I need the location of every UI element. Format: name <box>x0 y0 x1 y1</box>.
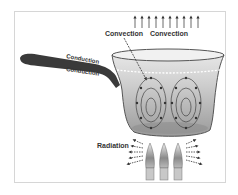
heat-transfer-diagram: Convection Convection Conduction Conduct… <box>0 0 238 195</box>
flame-1 <box>146 143 155 180</box>
radiation-arrows-right <box>186 140 201 164</box>
saucepan-bottom <box>132 122 208 134</box>
label-radiation: Radiation <box>97 142 129 149</box>
saucepan-rim <box>112 49 224 61</box>
flame-2 <box>160 143 169 180</box>
label-convection-left: Convection <box>105 30 143 37</box>
burner-flames <box>146 143 183 180</box>
rising-heat-arrows <box>135 17 198 28</box>
radiation-arrows-left <box>128 140 143 164</box>
label-convection-right: Convection <box>150 30 188 37</box>
flame-3 <box>174 143 183 180</box>
